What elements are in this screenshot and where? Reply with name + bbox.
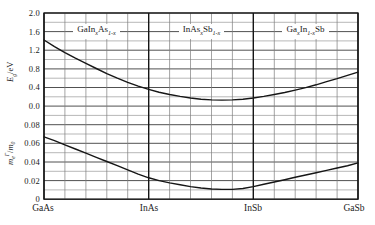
y1-tick-label: 1.6 bbox=[0, 27, 42, 37]
y1-axis-title-bandgap: Eg/eV bbox=[5, 50, 17, 94]
x-tick-gaas: GaAs bbox=[21, 203, 65, 213]
region-label-gainsb: GaxIn1-xSb bbox=[253, 26, 358, 37]
y1-tick-label: 2.0 bbox=[0, 8, 42, 18]
bandgap-effective-mass-figure: 2.0 1.6 1.2 0.8 0.4 0.0 0.08 0.06 0.04 0… bbox=[0, 0, 375, 225]
y2-tick-label: 0.02 bbox=[0, 176, 42, 186]
x-tick-insb: InSb bbox=[231, 203, 275, 213]
region-label-gainas: GaInxAs1-x bbox=[44, 26, 149, 37]
region-label-inassb: InAsxSb1-x bbox=[149, 26, 254, 37]
y1-tick-label: 0.0 bbox=[0, 101, 42, 111]
x-tick-inas: InAs bbox=[127, 203, 171, 213]
y2-tick-label: 0.08 bbox=[0, 120, 42, 130]
y2-axis-title-effective-mass: meΓ/m0 bbox=[4, 131, 17, 175]
x-tick-gasb: GaSb bbox=[332, 203, 375, 213]
